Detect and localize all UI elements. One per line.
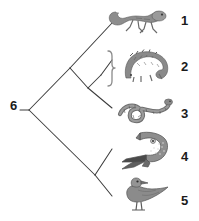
- tip-label-1: 1: [181, 14, 188, 27]
- clade-brace: [108, 51, 115, 86]
- tip-label-2: 2: [181, 60, 188, 73]
- cladogram-figure: 6 1 2 3 4 5: [0, 0, 199, 221]
- branch-node-a-to-node-b: [70, 68, 88, 88]
- crocodile-icon: [120, 129, 172, 173]
- tip-label-3: 3: [181, 107, 188, 120]
- bird-icon: [118, 174, 172, 216]
- tuatara-icon: [120, 48, 172, 84]
- branch-root-to-lower-clade: [29, 110, 95, 175]
- branch-to-tip-3: [88, 88, 112, 108]
- branch-to-tip-5: [95, 175, 112, 196]
- branch-to-tip-2: [101, 60, 112, 75]
- branch-node-b-to-node-c: [88, 75, 101, 88]
- branch-root-to-upper-clade: [29, 68, 70, 110]
- tip-label-5: 5: [181, 194, 188, 207]
- root-node-label: 6: [10, 99, 17, 112]
- snake-icon: [116, 96, 176, 128]
- lizard-icon: [106, 6, 168, 44]
- tip-label-4: 4: [181, 150, 188, 163]
- branch-to-tip-4: [95, 149, 112, 175]
